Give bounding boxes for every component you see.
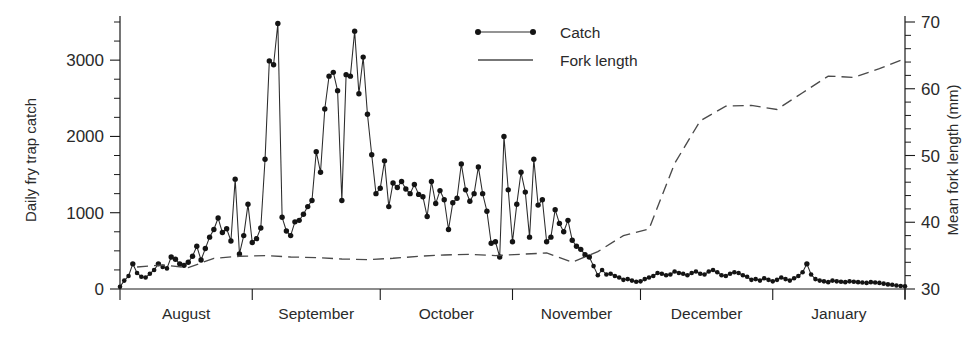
catch-data-point — [471, 191, 476, 196]
catch-data-point — [228, 238, 233, 243]
catch-data-point — [860, 280, 865, 285]
catch-data-point — [198, 257, 203, 262]
y2-tick-label: 60 — [921, 80, 940, 99]
chart-legend: CatchFork length — [475, 24, 638, 69]
catch-data-point — [301, 212, 306, 217]
catch-data-point — [254, 236, 259, 241]
catch-data-point — [484, 208, 489, 213]
catch-data-point — [809, 272, 814, 277]
catch-data-point — [305, 204, 310, 209]
catch-data-point — [275, 21, 280, 26]
catch-data-point — [446, 227, 451, 232]
catch-data-point — [373, 191, 378, 196]
catch-data-point — [173, 257, 178, 262]
catch-data-point — [728, 271, 733, 276]
catch-data-point — [715, 270, 720, 275]
catch-data-point — [476, 164, 481, 169]
catch-data-point — [258, 225, 263, 230]
catch-data-point — [766, 278, 771, 283]
catch-data-point — [480, 191, 485, 196]
catch-data-point — [493, 239, 498, 244]
catch-data-point — [877, 281, 882, 286]
catch-data-point — [668, 272, 673, 277]
catch-data-point — [856, 280, 861, 285]
catch-data-point — [369, 152, 374, 157]
catch-data-point — [339, 198, 344, 203]
catch-data-point — [642, 277, 647, 282]
catch-data-point — [523, 189, 528, 194]
catch-data-point — [194, 244, 199, 249]
catch-data-point — [578, 247, 583, 252]
catch-data-point — [148, 271, 153, 276]
catch-data-point — [501, 134, 506, 139]
catch-data-point — [625, 277, 630, 282]
catch-data-point — [118, 284, 123, 289]
catch-data-point — [736, 271, 741, 276]
catch-data-point — [211, 227, 216, 232]
catch-data-point — [279, 215, 284, 220]
catch-data-point — [886, 282, 891, 287]
catch-data-point — [510, 239, 515, 244]
catch-data-point — [711, 268, 716, 273]
catch-data-point — [407, 191, 412, 196]
catch-data-point — [672, 269, 677, 274]
fry-trap-catch-chart: 0100020003000 3040506070 AugustSeptember… — [0, 0, 978, 344]
catch-data-point — [847, 279, 852, 284]
catch-data-point — [190, 253, 195, 258]
catch-data-point — [207, 234, 212, 239]
catch-data-point — [531, 157, 536, 162]
catch-data-point — [561, 229, 566, 234]
catch-data-point — [775, 278, 780, 283]
catch-data-point — [203, 246, 208, 251]
catch-data-point — [719, 273, 724, 278]
catch-data-point — [604, 272, 609, 277]
catch-data-point — [834, 279, 839, 284]
catch-data-point — [758, 278, 763, 283]
right-axis: 3040506070 — [905, 13, 940, 299]
chart-canvas: 0100020003000 3040506070 AugustSeptember… — [0, 0, 978, 344]
catch-data-point — [608, 271, 613, 276]
catch-data-point — [638, 279, 643, 284]
catch-data-point — [540, 197, 545, 202]
catch-data-point — [655, 271, 660, 276]
catch-data-point — [245, 202, 250, 207]
catch-data-point — [779, 275, 784, 280]
y2-tick-label: 40 — [921, 213, 940, 232]
catch-data-point — [903, 284, 908, 289]
catch-data-point — [352, 28, 357, 33]
catch-data-point — [647, 275, 652, 280]
catch-data-point — [331, 70, 336, 75]
catch-data-point — [527, 234, 532, 239]
catch-data-point — [262, 157, 267, 162]
catch-data-point — [288, 233, 293, 238]
y2-tick-label: 30 — [921, 280, 940, 299]
catch-data-point — [437, 188, 442, 193]
catch-data-point — [813, 277, 818, 282]
y-tick-label: 3000 — [66, 51, 104, 70]
catch-data-point — [399, 179, 404, 184]
catch-data-point — [804, 261, 809, 266]
catch-data-point — [450, 200, 455, 205]
catch-data-point — [552, 207, 557, 212]
catch-data-point — [830, 278, 835, 283]
catch-data-point — [224, 226, 229, 231]
catch-data-point — [800, 270, 805, 275]
legend-catch-swatch-dot-right — [530, 29, 536, 35]
catch-data-point — [898, 284, 903, 289]
fork-series-line — [137, 59, 905, 268]
catch-data-point — [335, 88, 340, 93]
catch-data-point — [852, 279, 857, 284]
catch-data-point — [139, 274, 144, 279]
catch-data-point — [459, 161, 464, 166]
catch-data-point — [894, 283, 899, 288]
catch-data-point — [681, 271, 686, 276]
catch-data-point — [839, 279, 844, 284]
catch-data-point — [215, 215, 220, 220]
y-tick-label: 2000 — [66, 127, 104, 146]
catch-data-point — [873, 280, 878, 285]
catch-data-point — [864, 281, 869, 286]
catch-data-point — [356, 91, 361, 96]
catch-data-point — [386, 204, 391, 209]
x-month-label: September — [278, 305, 354, 322]
catch-data-point — [135, 271, 140, 276]
